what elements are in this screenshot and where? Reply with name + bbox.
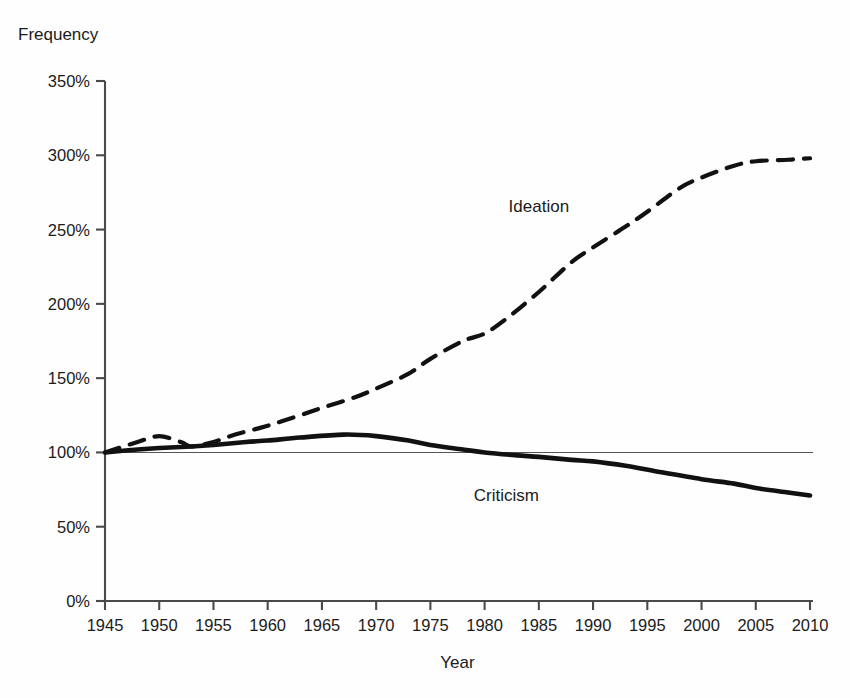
y-tick-label: 200%	[48, 295, 91, 313]
x-tick-label: 2010	[792, 616, 829, 634]
x-tick-label: 1945	[87, 616, 124, 634]
x-tick-label: 1995	[629, 616, 666, 634]
y-tick-label: 150%	[48, 369, 91, 387]
x-tick-label: 1950	[141, 616, 178, 634]
series-annotation-ideation: Ideation	[509, 197, 570, 216]
x-tick-label: 1985	[520, 616, 557, 634]
series-annotation-criticism: Criticism	[474, 486, 539, 505]
frequency-line-chart: 0%50%100%150%200%250%300%350%19451950195…	[0, 0, 850, 698]
y-tick-label: 350%	[48, 72, 91, 90]
x-tick-label: 1980	[466, 616, 503, 634]
x-tick-label: 2000	[683, 616, 720, 634]
x-tick-label: 2005	[737, 616, 774, 634]
y-tick-label: 300%	[48, 146, 91, 164]
x-tick-label: 1965	[304, 616, 341, 634]
y-tick-label: 250%	[48, 221, 91, 239]
y-tick-label: 100%	[48, 443, 91, 461]
chart-page: 0%50%100%150%200%250%300%350%19451950195…	[0, 0, 850, 698]
x-tick-label: 1970	[358, 616, 395, 634]
y-tick-label: 0%	[66, 592, 90, 610]
x-tick-label: 1960	[249, 616, 286, 634]
plot-background	[0, 0, 850, 698]
x-tick-label: 1990	[575, 616, 612, 634]
x-tick-label: 1955	[195, 616, 232, 634]
y-axis-title: Frequency	[18, 25, 99, 44]
y-tick-label: 50%	[57, 518, 90, 536]
x-axis-title: Year	[440, 653, 475, 672]
x-tick-label: 1975	[412, 616, 449, 634]
